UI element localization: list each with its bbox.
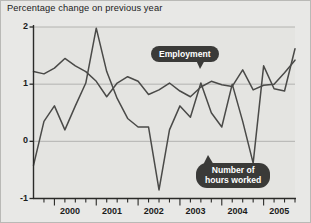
hours-callout-line2: hours worked xyxy=(205,175,261,185)
x-axis-label-2000: 2000 xyxy=(53,206,87,216)
x-axis-label-2004: 2004 xyxy=(221,206,255,216)
x-axis-label-2001: 2001 xyxy=(95,206,129,216)
x-tick-marks xyxy=(44,199,295,206)
chart-screenshot: Percentage change on previous year 210-1… xyxy=(0,0,311,223)
x-axis-label-2003: 2003 xyxy=(179,206,213,216)
y-axis-label-0: 0 xyxy=(4,135,28,145)
employment-callout: Employment xyxy=(151,46,219,62)
y-axis-label-1: 1 xyxy=(4,78,28,88)
chart-plot-area xyxy=(0,0,311,223)
y-axis-label-2: 2 xyxy=(4,21,28,31)
y-axis-label--1: -1 xyxy=(4,193,28,203)
x-axis-label-2005: 2005 xyxy=(262,206,296,216)
x-axis-label-2002: 2002 xyxy=(137,206,171,216)
hours-callout-line1: Number of xyxy=(205,165,261,175)
hours-callout: Number of hours worked xyxy=(196,163,270,188)
